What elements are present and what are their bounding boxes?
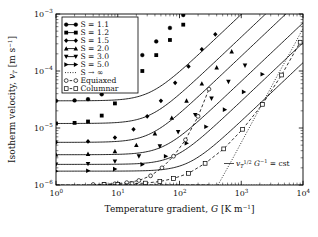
- y-tick-exponent: −3: [45, 8, 54, 14]
- marker-square-filled: [168, 38, 172, 42]
- y-tick-mantissa: 10: [34, 124, 44, 133]
- marker-circle-filled: [140, 53, 144, 57]
- y-tick-mantissa: 10: [34, 10, 44, 19]
- marker-circle-open: [74, 79, 78, 83]
- marker-square-open: [158, 180, 162, 184]
- figure-background: [0, 0, 318, 237]
- marker-square-open: [241, 127, 245, 131]
- marker-square-open: [222, 147, 226, 151]
- y-tick-mantissa: 10: [34, 181, 44, 190]
- y-axis-title-text: Isotherm velocity, vT [m s−1]: [7, 36, 18, 163]
- y-tick-exponent: −5: [45, 122, 54, 128]
- marker-square-open: [64, 87, 68, 91]
- marker-square-open: [203, 161, 207, 165]
- marker-square-filled: [73, 121, 77, 125]
- marker-circle-open: [172, 154, 176, 158]
- isotherm-velocity-chart: 10010110210310410−310−410−510−6S = 1.1S …: [0, 0, 318, 237]
- marker-circle-open: [184, 138, 188, 142]
- x-tick-mantissa: 10: [111, 189, 121, 198]
- marker-circle-filled: [74, 23, 78, 27]
- marker-square-open: [143, 181, 147, 185]
- marker-square-filled: [100, 114, 104, 118]
- x-tick-exponent: 0: [60, 188, 64, 194]
- marker-circle-filled: [64, 23, 68, 27]
- marker-square-open: [187, 171, 191, 175]
- marker-square-open: [298, 40, 302, 44]
- x-tick-exponent: 3: [245, 188, 249, 194]
- x-tick-exponent: 2: [183, 188, 187, 194]
- x-tick-exponent: 1: [121, 188, 125, 194]
- x-tick-exponent: 4: [307, 188, 311, 194]
- marker-square-open: [74, 87, 78, 91]
- x-tick-mantissa: 10: [50, 189, 60, 198]
- y-axis-title: Isotherm velocity, vT [m s−1]: [7, 36, 18, 163]
- marker-square-open: [280, 73, 284, 77]
- marker-square-filled: [86, 120, 90, 124]
- marker-circle-open: [160, 166, 164, 170]
- marker-circle-filled: [168, 26, 172, 30]
- marker-square-open: [172, 177, 176, 181]
- marker-circle-open: [207, 87, 211, 91]
- marker-circle-filled: [73, 98, 77, 102]
- legend: S = 1.1S = 1.2S = 1.5S = 2.0S = 3.0S = 5…: [62, 17, 138, 93]
- x-axis-title: Temperature gradient, G [K m−1]: [105, 204, 255, 214]
- marker-square-filled: [113, 102, 117, 106]
- x-tick-mantissa: 10: [235, 189, 245, 198]
- marker-square-filled: [181, 23, 185, 27]
- x-tick-mantissa: 10: [173, 189, 183, 198]
- y-tick-mantissa: 10: [34, 67, 44, 76]
- figure-container: 10010110210310410−310−410−510−6S = 1.1S …: [0, 0, 318, 237]
- y-tick-exponent: −6: [45, 179, 54, 185]
- legend-label: Columnar: [81, 84, 119, 93]
- marker-circle-filled: [154, 40, 158, 44]
- marker-circle-open: [149, 174, 153, 178]
- marker-square-filled: [140, 69, 144, 73]
- y-tick-exponent: −4: [45, 65, 54, 71]
- marker-circle-open: [196, 114, 200, 118]
- x-tick-mantissa: 10: [297, 189, 307, 198]
- marker-square-filled: [74, 31, 78, 35]
- marker-square-filled: [154, 53, 158, 57]
- marker-square-open: [260, 102, 264, 106]
- marker-circle-open: [64, 79, 68, 83]
- marker-square-filled: [64, 31, 68, 35]
- x-axis-title-text: Temperature gradient, G [K m−1]: [105, 204, 255, 214]
- marker-circle-open: [137, 179, 141, 183]
- marker-circle-filled: [86, 97, 90, 101]
